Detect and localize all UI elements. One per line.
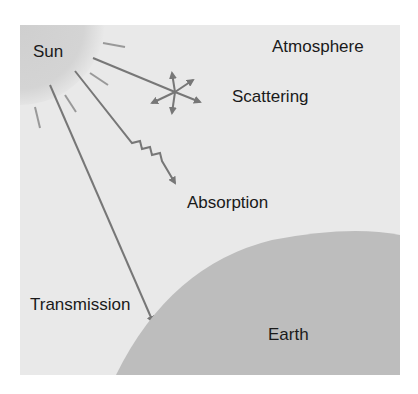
scattering-star bbox=[152, 73, 200, 113]
scattering-label: Scattering bbox=[232, 87, 309, 107]
earth-shape bbox=[116, 231, 400, 375]
earth-label: Earth bbox=[268, 325, 309, 345]
scattering-ray bbox=[93, 58, 175, 92]
absorption-ray bbox=[75, 71, 175, 183]
absorption-label: Absorption bbox=[187, 193, 268, 213]
transmission-ray bbox=[50, 85, 153, 322]
transmission-label: Transmission bbox=[30, 295, 130, 315]
sun-label: Sun bbox=[33, 42, 63, 62]
atmosphere-panel: Sun Atmosphere Scattering Absorption Tra… bbox=[20, 25, 400, 375]
atmosphere-label: Atmosphere bbox=[272, 37, 364, 57]
